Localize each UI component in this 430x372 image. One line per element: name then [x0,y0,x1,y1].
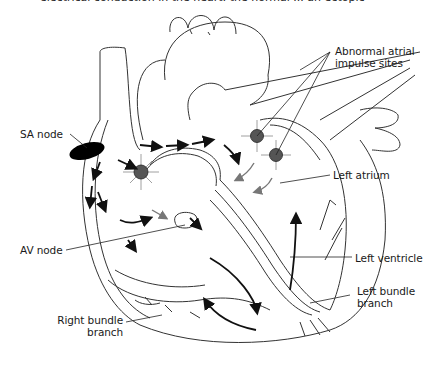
label-left-bundle-branch: Left bundle branch [357,285,415,309]
aorta [164,16,269,81]
label-line: impulse sites [335,57,415,69]
pointer-av [66,225,185,250]
label-line: Left bundle [357,285,415,297]
label-sa-node: SA node [20,128,63,140]
pointer-lbb [310,295,350,303]
label-left-atrium: Left atrium [333,169,390,181]
pointer-la [280,175,330,183]
label-left-ventricle: Left ventricle [355,252,423,264]
label-line: branch [357,297,415,309]
label-av-node: AV node [20,244,63,256]
pointer-rbb [126,315,162,322]
label-line: Right bundle [50,314,123,326]
av-node-outline [175,212,197,228]
label-line: Abnormal atrial [335,45,415,57]
superior-vena-cava [100,47,125,120]
pointer-abnormal-1 [257,52,330,136]
label-right-bundle-branch: Right bundle branch [50,314,123,338]
label-line: branch [50,326,123,338]
atrial-node-right [123,154,159,190]
label-abnormal-atrial-sites: Abnormal atrial impulse sites [335,45,415,69]
